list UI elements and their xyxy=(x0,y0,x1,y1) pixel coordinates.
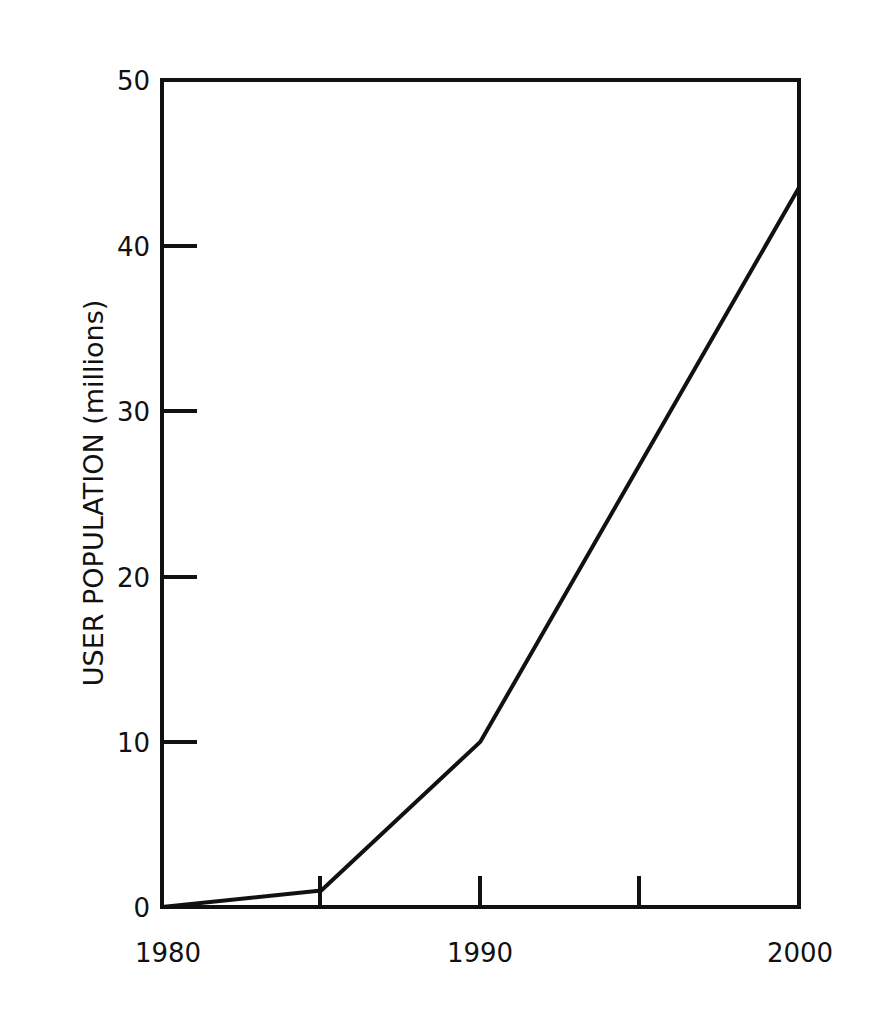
svg-text:10: 10 xyxy=(117,728,150,758)
y-axis-title: USER POPULATION (millions) xyxy=(78,300,109,686)
x-tick-labels: 1980 1990 2000 xyxy=(135,938,833,968)
y-ticks xyxy=(162,246,197,742)
x-ticks xyxy=(320,876,639,907)
svg-text:0: 0 xyxy=(133,893,150,923)
svg-text:30: 30 xyxy=(117,397,150,427)
svg-text:20: 20 xyxy=(117,563,150,593)
svg-text:1990: 1990 xyxy=(447,938,513,968)
y-tick-labels: 0 10 20 30 40 50 xyxy=(117,66,150,923)
svg-text:2000: 2000 xyxy=(767,938,833,968)
svg-text:40: 40 xyxy=(117,232,150,262)
svg-text:1980: 1980 xyxy=(135,938,201,968)
plot-frame xyxy=(162,80,799,907)
svg-text:50: 50 xyxy=(117,66,150,96)
data-line xyxy=(162,188,799,908)
line-chart: 0 10 20 30 40 50 1980 1990 2000 USER POP… xyxy=(0,0,877,1025)
